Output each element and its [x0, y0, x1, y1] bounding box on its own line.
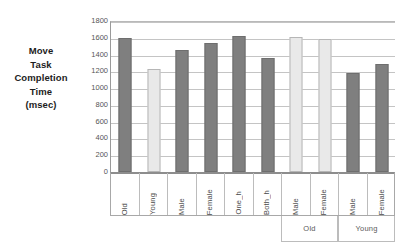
x-axis-category-label: Old	[121, 201, 129, 215]
x-axis-category-label: Female	[378, 187, 386, 215]
x-axis-group-spacer	[110, 216, 281, 242]
bars-layer	[111, 22, 395, 172]
x-axis-category-label: Female	[320, 187, 328, 215]
y-axis-title: Move Task Completion Time (msec)	[2, 44, 80, 112]
x-axis-group-band: OldYoung	[110, 216, 395, 242]
bar[interactable]	[375, 64, 388, 172]
y-axis-title-line-2: Task	[2, 58, 80, 72]
x-axis-category-cell: Old	[111, 173, 140, 215]
bar[interactable]	[347, 73, 360, 172]
y-axis-title-line-1: Move	[2, 44, 80, 58]
x-axis-category-label: Male	[292, 196, 300, 215]
x-axis-category-label: Female	[206, 187, 214, 215]
x-axis-category-cell: Female	[197, 173, 226, 215]
rotated-label-wrapper: Male	[282, 173, 310, 215]
x-axis-group-label-young: Young	[338, 216, 395, 242]
x-axis-category-label: Young	[149, 191, 157, 215]
x-axis-category-label: Male	[178, 196, 186, 215]
x-axis-category-cell: One_h	[225, 173, 254, 215]
rotated-label-wrapper: Female	[368, 173, 397, 215]
bar-slot	[282, 22, 311, 172]
y-axis-tick-label: 1600	[78, 34, 108, 42]
bar[interactable]	[176, 50, 189, 172]
x-axis-category-label: Male	[349, 196, 357, 215]
y-axis-title-line-4: Time	[2, 85, 80, 99]
y-axis-tick-label: 1400	[78, 51, 108, 59]
y-axis-tick-label: 1800	[78, 17, 108, 25]
bar[interactable]	[290, 37, 303, 172]
bar-chart: Move Task Completion Time (msec) 1800160…	[0, 0, 404, 252]
x-axis-category-cell: Female	[368, 173, 397, 215]
bar[interactable]	[233, 36, 246, 172]
y-axis-tick-label: 1000	[78, 84, 108, 92]
bar-slot	[168, 22, 197, 172]
bar-slot	[368, 22, 397, 172]
y-axis-tick-label: 1200	[78, 67, 108, 75]
bar[interactable]	[147, 69, 160, 172]
x-axis-category-cell: Male	[168, 173, 197, 215]
bar-slot	[111, 22, 140, 172]
rotated-label-wrapper: Female	[197, 173, 225, 215]
y-axis-tick-labels: 180016001400120010008006004002000	[78, 15, 108, 178]
x-axis-category-cell: Young	[140, 173, 169, 215]
rotated-label-wrapper: Female	[311, 173, 339, 215]
y-axis-tick-label: 400	[78, 134, 108, 142]
rotated-label-wrapper: Male	[339, 173, 367, 215]
rotated-label-wrapper: Both_h	[254, 173, 282, 215]
rotated-label-wrapper: Old	[111, 173, 139, 215]
x-axis-category-band: OldYoungMaleFemaleOne_hBoth_hMaleFemaleM…	[110, 172, 395, 216]
x-axis-category-label: Both_h	[263, 188, 271, 215]
y-axis-tick-label: 600	[78, 118, 108, 126]
y-axis-title-line-3: Completion	[2, 71, 80, 85]
bar-slot	[311, 22, 340, 172]
rotated-label-wrapper: One_h	[225, 173, 253, 215]
x-axis-category-cell: Both_h	[254, 173, 283, 215]
rotated-label-wrapper: Male	[168, 173, 196, 215]
bar[interactable]	[119, 38, 132, 172]
y-axis-tick-label: 200	[78, 151, 108, 159]
bar-slot	[254, 22, 283, 172]
bar[interactable]	[204, 43, 217, 172]
plot-area	[110, 21, 395, 172]
x-axis-category-label: One_h	[235, 189, 243, 215]
bar-slot	[225, 22, 254, 172]
x-axis-category-cell: Male	[339, 173, 368, 215]
bar[interactable]	[318, 39, 331, 172]
bar[interactable]	[261, 58, 274, 173]
y-axis-tick-label: 800	[78, 101, 108, 109]
bar-slot	[339, 22, 368, 172]
bar-slot	[197, 22, 226, 172]
bar-slot	[140, 22, 169, 172]
x-axis-category-cell: Female	[311, 173, 340, 215]
x-axis-category-cell: Male	[282, 173, 311, 215]
y-axis-title-line-5: (msec)	[2, 98, 80, 112]
x-axis-group-label-old: Old	[281, 216, 338, 242]
rotated-label-wrapper: Young	[140, 173, 168, 215]
y-axis-tick-label: 0	[78, 168, 108, 176]
